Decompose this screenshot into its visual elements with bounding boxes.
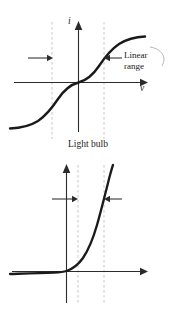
v-axis-arrowhead: [140, 268, 148, 276]
diode-chart-graphic: [0, 155, 176, 310]
light-bulb-linear-range-label-line2: range: [124, 61, 144, 72]
light-bulb-chart-graphic: [0, 0, 176, 155]
light-bulb-linear-range-label-line1: Linear: [124, 50, 147, 61]
light-bulb-i-axis-label: i: [68, 17, 71, 27]
label-leader-curl: [150, 47, 164, 66]
chart-panel-diode: i v Linear range: [0, 155, 176, 310]
figure-root: i v Linear range Light bulb i v: [0, 0, 176, 310]
range-arrow-left-head: [47, 55, 53, 61]
diode-iv-curve: [10, 165, 113, 274]
i-axis-arrowhead: [75, 21, 83, 30]
i-axis-arrowhead: [63, 164, 71, 173]
chart-panel-light-bulb: i v Linear range Light bulb: [0, 0, 176, 155]
light-bulb-caption: Light bulb: [0, 140, 176, 150]
light-bulb-v-axis-label: v: [140, 84, 144, 94]
range-arrow-left-head: [72, 196, 78, 202]
